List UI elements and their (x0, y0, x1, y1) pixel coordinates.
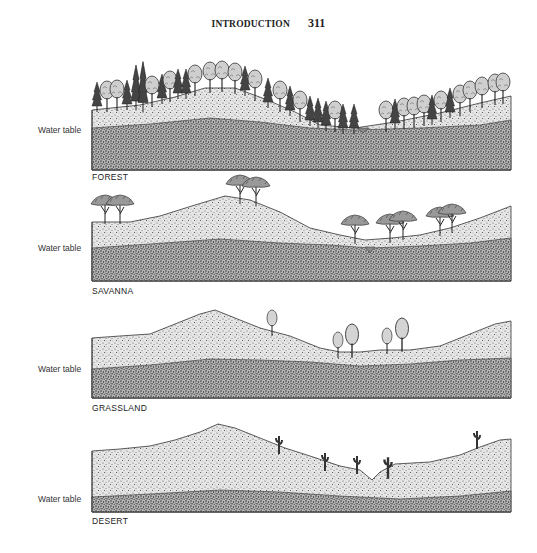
biome-water-table-figure: Water table FOREST Water table SAVANNA W… (0, 0, 537, 553)
cross-section-drawings (0, 0, 537, 553)
forest-label: FOREST (92, 172, 128, 182)
grassland-panel (92, 310, 511, 398)
savanna-water-table-label: Water table (38, 243, 81, 253)
grassland-label: GRASSLAND (92, 403, 147, 413)
desert-label: DESERT (92, 516, 128, 526)
desert-water-table-label: Water table (38, 494, 81, 504)
desert-panel (92, 424, 511, 512)
savanna-panel (91, 175, 511, 281)
grassland-water-table-label: Water table (38, 364, 81, 374)
forest-panel (92, 61, 511, 170)
savanna-label: SAVANNA (92, 286, 133, 296)
forest-water-table-label: Water table (38, 125, 81, 135)
